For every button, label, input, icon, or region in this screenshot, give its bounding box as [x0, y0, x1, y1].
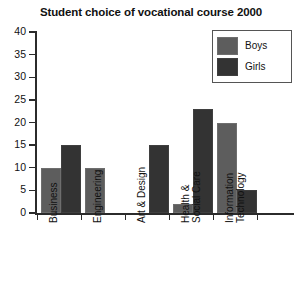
- x-axis-category-label: Business: [49, 182, 60, 223]
- legend-label-girls: Girls: [245, 62, 266, 72]
- y-axis-tick: [29, 31, 36, 32]
- bar-girls-0: [61, 145, 81, 213]
- y-axis-tick-label: 35: [0, 49, 26, 60]
- bar-girls-2: [149, 145, 169, 213]
- bar-chart: Student choice of vocational course 2000…: [0, 0, 302, 302]
- chart-title: Student choice of vocational course 2000: [0, 6, 302, 18]
- x-axis-tick: [213, 214, 214, 220]
- x-axis-category-label: Art & Design: [137, 167, 148, 223]
- y-axis-tick: [29, 77, 36, 78]
- y-axis-tick: [29, 122, 36, 123]
- x-axis-category-label: InformationTechnology: [225, 172, 246, 223]
- y-axis-tick-label: 10: [0, 162, 26, 173]
- legend-item-girls: Girls: [217, 56, 287, 77]
- x-axis-tick: [169, 214, 170, 220]
- chart-legend: Boys Girls: [212, 30, 292, 83]
- y-axis-tick: [29, 190, 36, 191]
- y-axis-tick-label: 5: [0, 184, 26, 195]
- y-axis-tick: [29, 167, 36, 168]
- x-axis-tick: [257, 214, 258, 220]
- y-axis-tick: [29, 144, 36, 145]
- y-axis-tick-label: 0: [0, 207, 26, 218]
- legend-label-boys: Boys: [245, 41, 267, 51]
- x-axis-tick: [125, 214, 126, 220]
- x-axis-line: [35, 213, 294, 215]
- legend-item-boys: Boys: [217, 35, 287, 56]
- legend-swatch-boys-icon: [217, 37, 238, 55]
- y-axis-tick: [29, 212, 36, 213]
- x-axis-tick: [37, 214, 38, 220]
- y-axis-tick-label: 40: [0, 26, 26, 37]
- x-axis-tick: [81, 214, 82, 220]
- x-axis-category-label: Engineering: [93, 170, 104, 223]
- y-axis-tick: [29, 99, 36, 100]
- y-axis-tick-label: 20: [0, 117, 26, 128]
- x-axis-category-label: Health &Social Care: [181, 171, 202, 223]
- y-axis-tick: [29, 54, 36, 55]
- y-axis-tick-label: 15: [0, 139, 26, 150]
- y-axis-tick-label: 30: [0, 71, 26, 82]
- legend-swatch-girls-icon: [217, 58, 238, 76]
- y-axis-tick-label: 25: [0, 94, 26, 105]
